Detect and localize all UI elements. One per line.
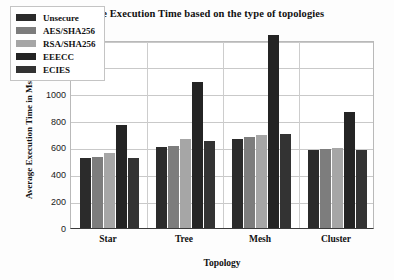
bar[interactable] [232,139,243,228]
legend-item[interactable]: EEECC [16,50,96,63]
bar[interactable] [256,135,267,228]
y-axis-tick: 0 [0,224,66,234]
legend-swatch-icon [16,40,36,47]
bar[interactable] [204,141,215,228]
x-axis-label: Topology [70,258,374,268]
legend-item[interactable]: Unsecure [16,11,96,24]
bar[interactable] [128,158,139,228]
legend-swatch-icon [16,27,36,34]
bar[interactable] [80,158,91,228]
x-axis-tick: Mesh [249,234,271,244]
x-axis-tick: Cluster [321,234,351,244]
y-axis-tick: 200 [0,197,66,207]
plot-area [70,41,374,229]
legend-item[interactable]: RSA/SHA256 [16,37,96,50]
bar-group [299,42,375,228]
bar[interactable] [280,134,291,228]
bar[interactable] [168,146,179,228]
bar[interactable] [104,153,115,228]
bar[interactable] [244,137,255,228]
legend-label: ECIES [43,65,70,75]
legend-label: AES/SHA256 [43,26,95,36]
legend-label: RSA/SHA256 [43,39,96,49]
bar[interactable] [92,157,103,228]
bar[interactable] [344,112,355,228]
x-axis-tick: Tree [175,234,193,244]
legend-label: Unsecure [43,13,79,23]
x-axis-tick: Star [99,234,116,244]
bar[interactable] [180,139,191,228]
bar-group [223,42,299,228]
bar[interactable] [268,35,279,228]
y-axis-tick: 1000 [0,90,66,100]
y-axis-tick: 800 [0,117,66,127]
bar[interactable] [356,150,367,228]
bar[interactable] [156,147,167,228]
legend-swatch-icon [16,53,36,60]
legend-swatch-icon [16,66,36,73]
legend-swatch-icon [16,14,36,21]
bar[interactable] [192,82,203,228]
bar[interactable] [116,125,127,228]
y-axis-tick: 400 [0,170,66,180]
bar[interactable] [320,149,331,228]
chart-legend: UnsecureAES/SHA256RSA/SHA256EEECCECIES [10,6,105,81]
y-axis-tick: 600 [0,143,66,153]
legend-item[interactable]: AES/SHA256 [16,24,96,37]
bar[interactable] [332,148,343,228]
bar-group [147,42,223,228]
bar-chart: Average Execution Time based on the type… [0,0,394,280]
bar[interactable] [308,150,319,228]
legend-item[interactable]: ECIES [16,63,96,76]
legend-label: EEECC [43,52,74,62]
